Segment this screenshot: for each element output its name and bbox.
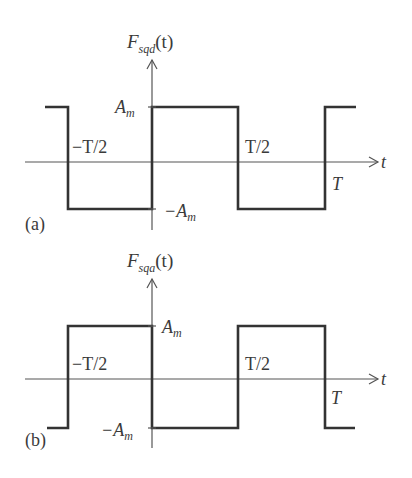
amp-neg-label-a: −Am: [164, 201, 196, 224]
tick-period-label-a: T: [332, 174, 344, 194]
amp-pos-label-b: Am: [161, 317, 182, 340]
figure-b: Fsqa(t) Am −Am −T/2 T/2 T t (b): [25, 250, 387, 451]
y-label-b: Fsqa(t): [126, 250, 173, 275]
x-label-a: t: [381, 152, 387, 172]
tick-neg-half-label-a: −T/2: [72, 137, 107, 157]
tick-neg-half-label-b: −T/2: [72, 354, 107, 374]
tick-pos-half-label-b: T/2: [245, 354, 270, 374]
tick-pos-half-label-a: T/2: [245, 137, 270, 157]
square-wave-diagram: Fsqd(t) Am −Am −T/2 T/2 T t (a) Fsqa: [0, 0, 412, 478]
panel-label-a: (a): [25, 214, 45, 235]
y-label-a: Fsqd(t): [126, 31, 173, 56]
panel-label-b: (b): [25, 430, 46, 451]
amp-pos-label-a: Am: [114, 97, 135, 120]
figure-a: Fsqd(t) Am −Am −T/2 T/2 T t (a): [25, 31, 387, 235]
waveform-a: [45, 107, 356, 209]
x-label-b: t: [381, 369, 387, 389]
amp-neg-label-b: −Am: [101, 420, 133, 443]
tick-period-label-b: T: [331, 388, 343, 408]
waveform-b: [47, 326, 355, 428]
